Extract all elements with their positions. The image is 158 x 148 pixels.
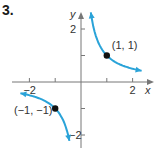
- x-tick-label: 2: [130, 84, 136, 96]
- curve-branch-negative: [20, 93, 69, 141]
- data-point: [52, 105, 58, 111]
- function-graph: −222−2xy(1, 1)(−1, −1): [0, 0, 158, 148]
- y-axis-arrow-icon: [78, 12, 84, 19]
- point-label: (1, 1): [112, 39, 138, 51]
- data-point: [104, 52, 110, 58]
- y-tick-label: 2: [70, 23, 76, 35]
- x-axis-label: x: [144, 84, 151, 96]
- point-label: (−1, −1): [14, 104, 53, 116]
- y-axis-label: y: [69, 8, 77, 20]
